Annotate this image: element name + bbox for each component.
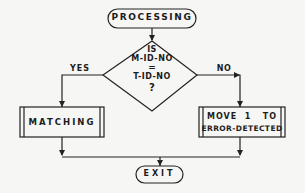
move-box-line-2: ERROR-DETECTED (200, 124, 284, 133)
decision-line-3: = (122, 62, 182, 72)
move-box-line-1: MOVE 1 TO (204, 112, 280, 121)
edge-no-label: NO (214, 64, 234, 73)
flowchart-lines (0, 0, 305, 193)
decision-line-4: T-ID-NO (117, 72, 187, 81)
decision-line-5: ? (122, 82, 182, 93)
edge-yes (62, 75, 103, 107)
exit-terminal-label: EXIT (136, 169, 183, 178)
flowchart-canvas: PROCESSING IS M-ID-NO = T-ID-NO ? YES NO… (0, 0, 305, 193)
start-terminal-label: PROCESSING (108, 12, 196, 22)
decision-line-1: IS (122, 45, 182, 54)
edge-no (197, 75, 240, 107)
matching-box-label: MATCHING (24, 117, 100, 127)
edge-yes-label: YES (68, 64, 92, 73)
